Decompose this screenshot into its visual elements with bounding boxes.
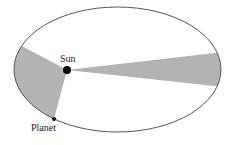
sun-icon — [63, 66, 71, 74]
sun-label: Sun — [60, 53, 76, 64]
right-swept-sector — [67, 51, 233, 88]
planet-label: Planet — [31, 122, 56, 133]
planet-icon — [52, 117, 56, 121]
